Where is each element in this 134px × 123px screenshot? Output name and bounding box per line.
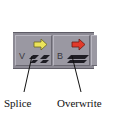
overwrite-label: Overwrite	[57, 97, 102, 109]
splice-shortcut-key: V	[19, 51, 25, 61]
next-toolbar-button[interactable]	[91, 35, 97, 66]
overwrite-shortcut-key: B	[57, 51, 63, 61]
edit-toolbar: V B	[13, 32, 94, 69]
splice-button[interactable]: V	[15, 35, 52, 66]
overwrite-icon	[66, 38, 90, 64]
splice-in-icon	[28, 38, 52, 64]
splice-label: Splice	[4, 97, 32, 109]
overwrite-button[interactable]: B	[53, 35, 90, 66]
